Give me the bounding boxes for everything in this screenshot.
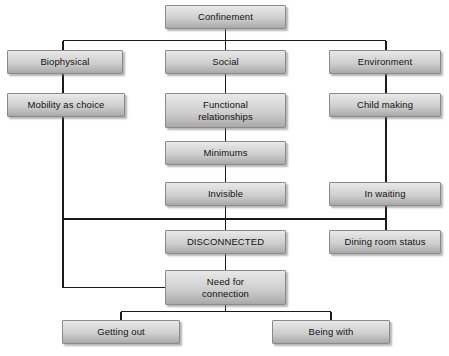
node-label: In waiting xyxy=(361,188,408,200)
node-being-with[interactable]: Being with xyxy=(272,320,390,344)
node-label: Minimums xyxy=(200,147,250,159)
node-in-waiting[interactable]: In waiting xyxy=(329,182,441,206)
node-dining-room-status[interactable]: Dining room status xyxy=(329,230,441,254)
node-label: Biophysical xyxy=(37,56,92,68)
node-disconnected[interactable]: DISCONNECTED xyxy=(165,230,286,254)
node-label: Mobility as choice xyxy=(25,99,108,111)
node-label: DISCONNECTED xyxy=(184,236,267,248)
node-label: Invisible xyxy=(205,188,246,200)
node-getting-out[interactable]: Getting out xyxy=(62,320,180,344)
confinement-flowchart: Confinement Biophysical Social Environme… xyxy=(0,0,449,356)
node-label: Being with xyxy=(306,326,357,338)
node-invisible[interactable]: Invisible xyxy=(165,182,286,206)
node-label: Getting out xyxy=(94,326,148,338)
node-label: Social xyxy=(209,56,241,68)
node-child-making[interactable]: Child making xyxy=(329,93,441,117)
node-label: Environment xyxy=(355,56,415,68)
node-functional-relationships[interactable]: Functional relationships xyxy=(165,93,286,128)
node-biophysical[interactable]: Biophysical xyxy=(7,50,123,74)
node-need-for-connection[interactable]: Need for connection xyxy=(165,270,286,305)
node-mobility-as-choice[interactable]: Mobility as choice xyxy=(7,93,125,117)
node-environment[interactable]: Environment xyxy=(329,50,441,74)
node-label: Functional relationships xyxy=(195,99,256,123)
node-label: Confinement xyxy=(195,11,256,23)
node-label: Need for connection xyxy=(199,276,252,300)
node-label: Child making xyxy=(354,99,416,111)
node-social[interactable]: Social xyxy=(165,50,286,74)
node-confinement[interactable]: Confinement xyxy=(165,5,286,29)
node-minimums[interactable]: Minimums xyxy=(165,141,286,165)
node-label: Dining room status xyxy=(341,236,428,248)
